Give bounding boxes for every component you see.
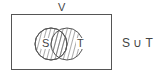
caption: S ∪ T [122,38,153,49]
set-t-label: T [76,38,85,49]
universe-label: V [58,2,65,13]
set-s-label: S [41,38,50,49]
